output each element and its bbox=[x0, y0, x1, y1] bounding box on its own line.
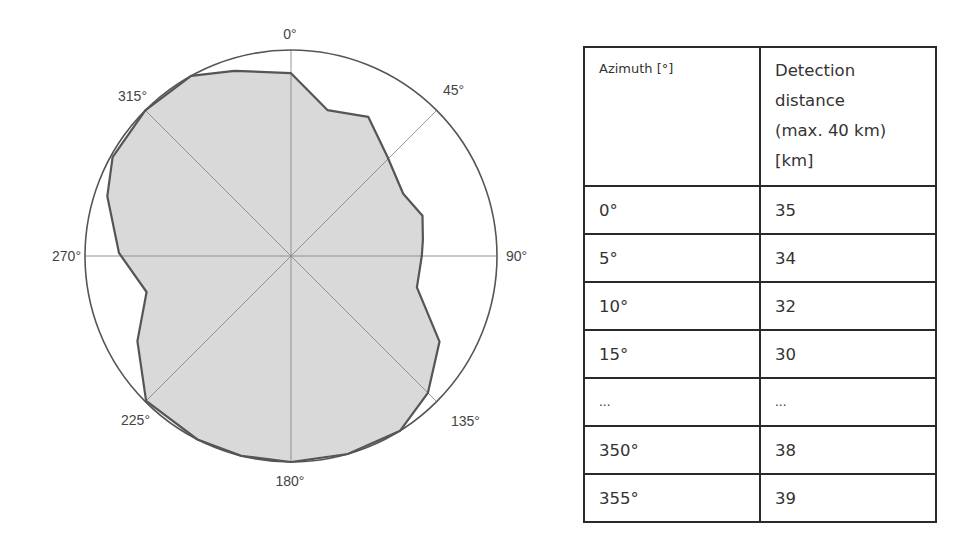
table-row: 355° 39 bbox=[584, 474, 936, 522]
detection-distance-table: Azimuth [°] Detection distance (max. 40 … bbox=[583, 46, 937, 523]
header-line: Detection bbox=[775, 56, 935, 86]
cell-distance: 39 bbox=[760, 474, 936, 522]
cell-azimuth: 355° bbox=[584, 474, 760, 522]
detection-area-fill bbox=[107, 71, 439, 462]
header-line: (max. 40 km) bbox=[775, 116, 935, 146]
angle-label-135: 135° bbox=[451, 413, 480, 429]
angle-label-225: 225° bbox=[121, 412, 150, 428]
cell-distance: 32 bbox=[760, 282, 936, 330]
cell-distance: 34 bbox=[760, 234, 936, 282]
cell-azimuth: 5° bbox=[584, 234, 760, 282]
table-row: 0° 35 bbox=[584, 186, 936, 234]
table-row: 10° 32 bbox=[584, 282, 936, 330]
cell-azimuth: 350° bbox=[584, 426, 760, 474]
detection-area bbox=[107, 71, 439, 462]
table-row: 350° 38 bbox=[584, 426, 936, 474]
cell-distance: ... bbox=[760, 378, 936, 426]
table-row: 5° 34 bbox=[584, 234, 936, 282]
cell-distance: 30 bbox=[760, 330, 936, 378]
angle-label-90: 90° bbox=[506, 248, 527, 264]
angle-label-45: 45° bbox=[443, 82, 464, 98]
angle-label-180: 180° bbox=[276, 473, 305, 489]
cell-distance: 38 bbox=[760, 426, 936, 474]
cell-azimuth: 0° bbox=[584, 186, 760, 234]
header-detection-distance: Detection distance (max. 40 km) [km] bbox=[760, 47, 936, 186]
angle-label-315: 315° bbox=[118, 88, 147, 104]
angle-label-270: 270° bbox=[52, 248, 81, 264]
header-line: distance bbox=[775, 86, 935, 116]
header-line: [km] bbox=[775, 146, 935, 176]
cell-distance: 35 bbox=[760, 186, 936, 234]
table-row-ellipsis: ... ... bbox=[584, 378, 936, 426]
angle-label-0: 0° bbox=[283, 26, 296, 42]
table-row: 15° 30 bbox=[584, 330, 936, 378]
header-azimuth: Azimuth [°] bbox=[584, 47, 760, 186]
table-header-row: Azimuth [°] Detection distance (max. 40 … bbox=[584, 47, 936, 186]
cell-azimuth: 15° bbox=[584, 330, 760, 378]
cell-azimuth: ... bbox=[584, 378, 760, 426]
polar-detection-chart: 0° 45° 90° 135° 180° 225° 270° 315° bbox=[0, 0, 560, 544]
cell-azimuth: 10° bbox=[584, 282, 760, 330]
